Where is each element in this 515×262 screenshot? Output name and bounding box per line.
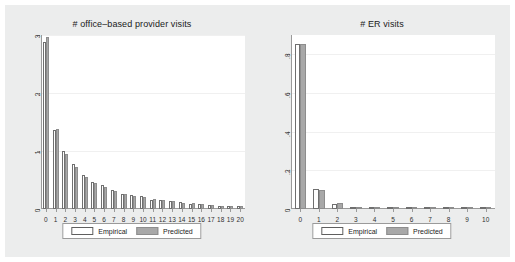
x-tick-mark bbox=[449, 209, 450, 212]
y-tick-label: .8 bbox=[284, 54, 291, 68]
x-tick-label: 3 bbox=[73, 216, 77, 223]
bar-predicted-3 bbox=[75, 167, 78, 209]
y-tick-label: 3 bbox=[34, 35, 41, 49]
x-tick-label: 6 bbox=[102, 216, 106, 223]
x-tick-label: 11 bbox=[149, 216, 156, 223]
x-tick-mark bbox=[114, 209, 115, 212]
x-tick-label: 9 bbox=[131, 216, 135, 223]
legend-label-predicted: Predicted bbox=[163, 228, 193, 235]
x-tick-mark bbox=[85, 209, 86, 212]
gridline bbox=[41, 35, 245, 36]
x-tick-mark bbox=[46, 209, 47, 212]
x-tick-label: 7 bbox=[428, 216, 432, 223]
x-tick-mark bbox=[153, 209, 154, 212]
gridline bbox=[41, 93, 245, 94]
legend-swatch-predicted-icon bbox=[386, 227, 408, 235]
legend-swatch-empirical-icon bbox=[71, 227, 93, 235]
y-tick-label: .6 bbox=[284, 93, 291, 107]
gridline bbox=[291, 54, 495, 55]
x-tick-mark bbox=[162, 209, 163, 212]
bar-predicted-7 bbox=[114, 191, 117, 209]
x-tick-mark bbox=[172, 209, 173, 212]
panel-title-right: # ER visits bbox=[261, 19, 503, 29]
x-tick-label: 9 bbox=[465, 216, 469, 223]
x-tick-mark bbox=[300, 209, 301, 212]
y-tick-label: 1 bbox=[34, 151, 41, 165]
x-tick-mark bbox=[56, 209, 57, 212]
x-tick-label: 20 bbox=[237, 216, 244, 223]
x-tick-mark bbox=[230, 209, 231, 212]
x-tick-label: 0 bbox=[298, 216, 302, 223]
legend-swatch-empirical-icon bbox=[321, 227, 343, 235]
x-tick-label: 8 bbox=[447, 216, 451, 223]
x-tick-label: 6 bbox=[410, 216, 414, 223]
x-tick-label: 19 bbox=[227, 216, 234, 223]
x-tick-label: 13 bbox=[169, 216, 176, 223]
x-tick-mark bbox=[75, 209, 76, 212]
x-tick-mark bbox=[143, 209, 144, 212]
x-tick-mark bbox=[412, 209, 413, 212]
x-tick-label: 2 bbox=[336, 216, 340, 223]
x-tick-label: 16 bbox=[198, 216, 205, 223]
x-tick-mark bbox=[221, 209, 222, 212]
plot-area-right: 0.2.4.6.8012345678910 bbox=[291, 35, 495, 209]
x-tick-mark bbox=[133, 209, 134, 212]
x-tick-label: 4 bbox=[373, 216, 377, 223]
x-tick-mark bbox=[430, 209, 431, 212]
x-tick-label: 0 bbox=[44, 216, 48, 223]
bar-predicted-8 bbox=[124, 194, 127, 209]
legend-label-empirical: Empirical bbox=[98, 228, 127, 235]
bar-predicted-12 bbox=[162, 200, 165, 209]
bar-predicted-1 bbox=[319, 190, 325, 209]
bar-predicted-10 bbox=[143, 197, 146, 209]
x-tick-mark bbox=[94, 209, 95, 212]
x-tick-label: 12 bbox=[159, 216, 166, 223]
figure-root: # office–based provider visits 012301234… bbox=[0, 0, 515, 262]
y-tick-label: 0 bbox=[284, 209, 291, 223]
graph-region: # office–based provider visits 012301234… bbox=[5, 5, 510, 257]
x-tick-mark bbox=[393, 209, 394, 212]
bar-predicted-6 bbox=[104, 187, 107, 209]
x-tick-label: 5 bbox=[93, 216, 97, 223]
bar-predicted-1 bbox=[56, 129, 59, 209]
plot-area-left: 012301234567891011121314151617181920 bbox=[41, 35, 245, 209]
x-tick-label: 10 bbox=[139, 216, 146, 223]
bar-predicted-0 bbox=[46, 37, 49, 209]
gridline bbox=[291, 170, 495, 171]
bar-predicted-0 bbox=[300, 44, 306, 209]
x-tick-label: 1 bbox=[317, 216, 321, 223]
bar-predicted-13 bbox=[172, 201, 175, 209]
panel-office-visits: # office–based provider visits 012301234… bbox=[11, 11, 253, 251]
legend-item-empirical-left: Empirical bbox=[71, 227, 127, 235]
x-tick-mark bbox=[192, 209, 193, 212]
bar-predicted-9 bbox=[133, 196, 136, 209]
bar-predicted-2 bbox=[65, 154, 68, 209]
panel-er-visits: # ER visits 0.2.4.6.8012345678910 Empiri… bbox=[261, 11, 503, 251]
legend-swatch-predicted-icon bbox=[136, 227, 158, 235]
legend-right: Empirical Predicted bbox=[312, 223, 451, 239]
x-tick-mark bbox=[65, 209, 66, 212]
x-tick-mark bbox=[337, 209, 338, 212]
y-tick-label: .4 bbox=[284, 131, 291, 145]
plot-inner-right: 0.2.4.6.8012345678910 bbox=[291, 35, 495, 209]
x-tick-label: 15 bbox=[188, 216, 195, 223]
y-axis-line bbox=[291, 35, 292, 209]
bar-predicted-5 bbox=[94, 183, 97, 209]
x-tick-label: 3 bbox=[354, 216, 358, 223]
y-tick-label: .2 bbox=[284, 170, 291, 184]
legend-left: Empirical Predicted bbox=[62, 223, 201, 239]
y-axis-line bbox=[41, 35, 42, 209]
gridline bbox=[291, 93, 495, 94]
x-tick-mark bbox=[374, 209, 375, 212]
x-tick-label: 8 bbox=[122, 216, 126, 223]
bar-predicted-11 bbox=[153, 199, 156, 209]
x-tick-label: 7 bbox=[112, 216, 116, 223]
legend-item-predicted-right: Predicted bbox=[386, 227, 443, 235]
y-tick-label: 0 bbox=[34, 209, 41, 223]
x-tick-label: 14 bbox=[178, 216, 185, 223]
plot-inner-left: 012301234567891011121314151617181920 bbox=[41, 35, 245, 209]
x-tick-mark bbox=[319, 209, 320, 212]
legend-label-predicted: Predicted bbox=[413, 228, 443, 235]
x-tick-label: 2 bbox=[63, 216, 67, 223]
x-tick-mark bbox=[104, 209, 105, 212]
